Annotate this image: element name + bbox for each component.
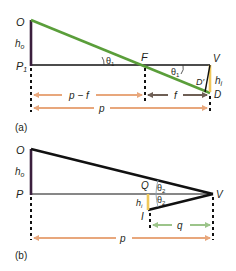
panel-caption-b: (b) xyxy=(15,250,27,261)
point-label-D-prime: D′ xyxy=(196,77,204,87)
image-height-label: hi xyxy=(215,75,223,87)
dimension-label-p-minus-f: p − f xyxy=(68,90,90,101)
panel-a: O ho P1 F V hi D D′ θ1 θ1 p − f f p (a) xyxy=(15,16,223,133)
point-label-P: P xyxy=(16,188,24,200)
image-height-label: hi xyxy=(136,198,143,209)
incident-ray xyxy=(31,149,213,194)
angle-label-theta1-left: θ1 xyxy=(106,56,115,67)
point-label-F: F xyxy=(141,51,149,63)
angle-arc-theta1-left xyxy=(102,57,104,65)
point-label-V: V xyxy=(213,53,221,64)
panel-caption-a: (a) xyxy=(15,122,27,133)
point-label-P1: P1 xyxy=(16,60,27,73)
panel-b: O ho P Q V hi I θ2 θ2 q p (b) xyxy=(15,144,224,261)
dimension-label-p: p xyxy=(98,103,105,114)
point-label-Q: Q xyxy=(141,180,149,191)
dimension-label-p: p xyxy=(119,233,126,244)
object-height-label: ho xyxy=(15,166,25,178)
point-label-O: O xyxy=(16,144,25,156)
angle-label-theta1-right: θ1 xyxy=(171,67,180,78)
object-height-label: ho xyxy=(15,38,25,50)
point-label-I: I xyxy=(141,211,144,222)
angle-arc-theta1-right xyxy=(181,65,183,74)
point-label-D: D xyxy=(214,89,221,100)
ray-line xyxy=(31,20,210,93)
point-label-O: O xyxy=(16,16,25,28)
dimension-label-f: f xyxy=(174,90,178,101)
dimension-label-q: q xyxy=(177,220,183,231)
point-label-V: V xyxy=(216,189,224,200)
mirror-geometry-diagram: O ho P1 F V hi D D′ θ1 θ1 p − f f p (a) xyxy=(0,0,236,271)
angle-label-theta2-upper: θ2 xyxy=(157,183,166,194)
angle-label-theta2-lower: θ2 xyxy=(157,195,166,206)
